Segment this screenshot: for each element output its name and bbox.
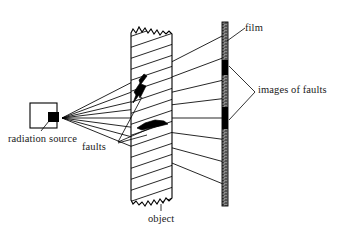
diagram-canvas bbox=[0, 0, 352, 244]
label-film: film bbox=[245, 21, 263, 34]
label-radiation-source: radiation source bbox=[8, 132, 78, 145]
leader-images-upper bbox=[229, 66, 255, 92]
label-images-of-faults: images of faults bbox=[258, 83, 327, 96]
source-emitter bbox=[48, 112, 59, 122]
image-band-upper bbox=[222, 60, 228, 75]
radiation-source bbox=[30, 103, 59, 128]
leader-images-lower bbox=[229, 92, 255, 120]
test-object bbox=[120, 18, 185, 238]
label-faults: faults bbox=[82, 140, 106, 153]
object-body bbox=[131, 27, 172, 206]
object-hatching bbox=[120, 18, 185, 238]
film-strip bbox=[222, 22, 228, 206]
label-object: object bbox=[148, 212, 174, 225]
leader-film bbox=[227, 28, 245, 41]
radiography-diagram: radiation source faults object film imag… bbox=[0, 0, 352, 244]
image-band-lower bbox=[222, 107, 228, 129]
